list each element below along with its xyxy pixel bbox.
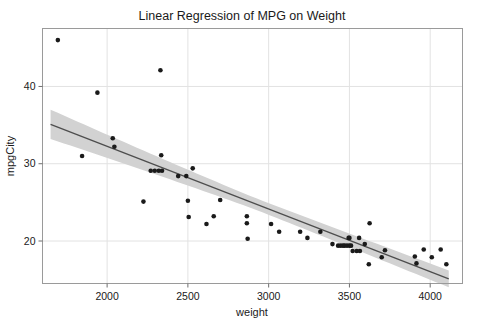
data-point [330, 242, 335, 247]
data-point [245, 221, 250, 226]
data-point [186, 215, 191, 220]
y-tick-label: 20 [24, 235, 36, 247]
data-point [414, 261, 419, 266]
data-point [159, 153, 164, 158]
y-tick-label: 40 [24, 80, 36, 92]
data-point [358, 249, 363, 254]
chart-container: Linear Regression of MPG on Weight 20002… [0, 0, 482, 327]
data-point [56, 38, 61, 43]
y-tick-label: 30 [24, 157, 36, 169]
data-point [421, 247, 426, 252]
data-point [184, 174, 189, 179]
data-point [298, 229, 303, 234]
data-point [218, 198, 223, 203]
data-point [160, 168, 165, 173]
data-point [430, 255, 435, 260]
data-point [211, 214, 216, 219]
x-tick-label: 4000 [419, 290, 443, 302]
data-point [269, 222, 274, 227]
data-point [277, 229, 282, 234]
data-point [367, 221, 372, 226]
data-point [95, 90, 100, 95]
x-tick-label: 3000 [257, 290, 281, 302]
data-point [190, 166, 195, 171]
data-point [110, 136, 115, 141]
data-point [350, 249, 355, 254]
data-point [176, 174, 181, 179]
regression-scatter-plot: Linear Regression of MPG on Weight 20002… [0, 0, 482, 327]
data-point [80, 154, 85, 159]
data-point [141, 199, 146, 204]
data-point [438, 247, 443, 252]
data-point [152, 168, 157, 173]
x-axis-label: weight [235, 306, 268, 318]
data-point [245, 214, 250, 219]
data-point [367, 262, 372, 267]
data-point [245, 236, 250, 241]
x-tick-label: 2500 [176, 290, 200, 302]
data-point [148, 168, 153, 173]
chart-title: Linear Regression of MPG on Weight [139, 9, 346, 23]
data-point [158, 68, 163, 73]
data-point [305, 236, 310, 241]
data-point [112, 144, 117, 149]
data-point [349, 243, 354, 248]
data-point [357, 236, 362, 241]
y-axis-label: mpgCity [4, 135, 16, 176]
data-point [347, 236, 352, 241]
data-point [186, 199, 191, 204]
data-point [383, 248, 388, 253]
data-point [204, 222, 209, 227]
x-tick-label: 3500 [338, 290, 362, 302]
data-point [444, 262, 449, 267]
data-point [318, 229, 323, 234]
data-point [379, 255, 384, 260]
data-point [362, 242, 367, 247]
x-tick-label: 2000 [95, 290, 119, 302]
data-point [413, 254, 418, 259]
